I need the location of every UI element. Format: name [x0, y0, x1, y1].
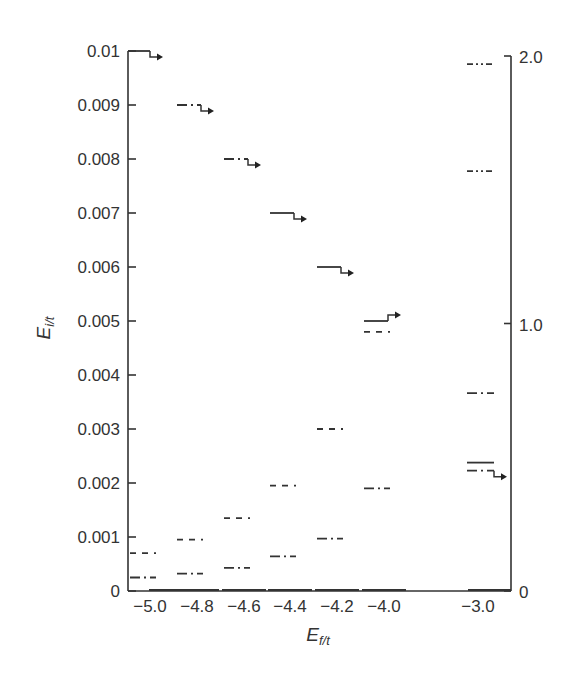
left-tick-label: 0.01	[87, 42, 120, 61]
x-tick-label: −4.8	[180, 597, 214, 616]
left-tick-label: 0.008	[77, 150, 120, 169]
right-tick-label: 2.0	[519, 48, 543, 67]
transition-arrow	[201, 105, 209, 111]
transition-arrow	[294, 213, 302, 219]
energy-level-chart: 00.0010.0020.0030.0040.0050.0060.0070.00…	[0, 0, 562, 674]
axes	[128, 51, 511, 591]
right-tick-label: 0	[519, 583, 528, 602]
left-tick-label: 0.004	[77, 366, 120, 385]
x-tick-label: −4.0	[367, 597, 401, 616]
left-tick-label: 0.002	[77, 474, 120, 493]
arrow-head-icon	[157, 54, 163, 61]
left-tick-label: 0.003	[77, 420, 120, 439]
y-axis-title: Ei/t	[33, 315, 57, 339]
left-tick-label: 0.001	[77, 528, 120, 547]
left-tick-label: 0.005	[77, 312, 120, 331]
arrow-head-icon	[395, 312, 401, 319]
right-tick-label: 1.0	[519, 316, 543, 335]
transition-arrow	[388, 315, 396, 321]
transition-arrow	[494, 471, 502, 477]
transition-arrow	[341, 267, 349, 273]
energy-levels	[128, 51, 511, 590]
left-tick-label: 0.009	[77, 96, 120, 115]
x-axis-title: Ef/t	[306, 624, 331, 648]
arrow-head-icon	[348, 270, 354, 277]
right-ticks: 01.02.0	[504, 48, 543, 602]
transition-arrow	[248, 159, 256, 165]
x-tick-labels: −5.0−4.8−4.6−4.4−4.2−4.0−3.0	[133, 597, 495, 616]
x-tick-label: −4.2	[320, 597, 354, 616]
left-tick-label: 0	[111, 582, 120, 601]
left-tick-label: 0.007	[77, 204, 120, 223]
arrow-head-icon	[208, 108, 214, 115]
arrow-head-icon	[301, 216, 307, 223]
x-tick-label: −5.0	[133, 597, 167, 616]
transition-arrow	[150, 51, 158, 57]
x-tick-label: −4.6	[227, 597, 261, 616]
left-tick-label: 0.006	[77, 258, 120, 277]
x-tick-label: −3.0	[461, 597, 495, 616]
x-tick-label: −4.4	[273, 597, 307, 616]
arrow-head-icon	[255, 162, 261, 169]
arrow-head-icon	[501, 473, 507, 480]
